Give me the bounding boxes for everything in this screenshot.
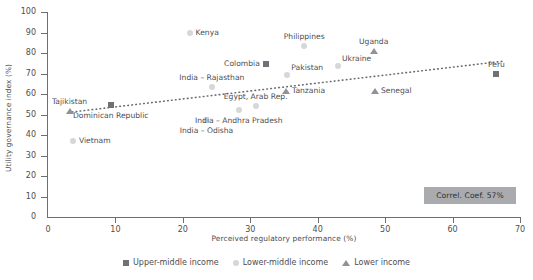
data-point-marker <box>187 30 193 36</box>
data-point-marker <box>371 88 379 94</box>
legend-item[interactable]: Upper-middle income <box>123 258 219 267</box>
data-point-marker <box>236 107 242 113</box>
legend-item[interactable]: Lower income <box>342 258 410 267</box>
y-tick-label: 70 <box>0 70 36 78</box>
data-point-marker <box>284 72 290 78</box>
legend-item-label: Lower income <box>354 258 410 267</box>
x-tick-label: 0 <box>28 226 68 234</box>
data-point-marker <box>253 103 259 109</box>
data-point-marker <box>66 108 74 114</box>
chart-legend: Upper-middle incomeLower-middle incomeLo… <box>0 258 533 267</box>
y-tick-mark <box>41 94 47 95</box>
data-point-marker <box>108 102 114 108</box>
triangle-swatch-icon <box>342 260 350 266</box>
y-tick-mark <box>41 74 47 75</box>
data-point-label: Tajikistan <box>52 97 87 106</box>
data-point-marker <box>209 84 215 90</box>
x-tick-mark <box>183 218 184 223</box>
y-tick-mark <box>41 33 47 34</box>
legend-item[interactable]: Lower-middle income <box>233 258 329 267</box>
x-tick-label: 50 <box>365 226 405 234</box>
data-point-label: Dominican Republic <box>73 111 148 120</box>
data-point-label: India – Rajasthan <box>179 73 244 82</box>
x-tick-label: 20 <box>163 226 203 234</box>
data-point-marker <box>263 61 269 67</box>
y-tick-label: 20 <box>0 172 36 180</box>
data-point-label: Senegal <box>381 86 412 95</box>
y-tick-label: 30 <box>0 152 36 160</box>
y-tick-label: 10 <box>0 193 36 201</box>
y-axis-line <box>47 12 48 218</box>
x-tick-mark <box>520 218 521 223</box>
x-tick-label: 10 <box>95 226 135 234</box>
x-tick-label: 30 <box>230 226 270 234</box>
y-tick-label: 60 <box>0 90 36 98</box>
correlation-coefficient-badge: Correl. Coef. 57% <box>424 187 516 204</box>
data-point-label: Vietnam <box>79 136 111 145</box>
y-tick-mark <box>41 12 47 13</box>
y-tick-label: 90 <box>0 29 36 37</box>
y-tick-label: 0 <box>0 213 36 221</box>
y-tick-label: 100 <box>0 8 36 16</box>
x-tick-label: 40 <box>298 226 338 234</box>
y-tick-mark <box>41 115 47 116</box>
y-tick-mark <box>41 135 47 136</box>
legend-item-label: Upper-middle income <box>133 258 219 267</box>
data-point-marker <box>301 43 307 49</box>
data-point-label: Pakistan <box>291 63 323 72</box>
y-tick-mark <box>41 176 47 177</box>
data-point-label: Uganda <box>359 37 388 46</box>
data-point-marker <box>70 138 76 144</box>
data-point-marker <box>370 48 378 54</box>
data-point-marker <box>282 88 290 94</box>
data-point-label: Philippines <box>284 32 325 41</box>
y-tick-mark <box>41 53 47 54</box>
x-tick-label: 70 <box>500 226 533 234</box>
x-tick-mark <box>385 218 386 223</box>
data-point-label: India – Andhra Pradesh <box>195 116 283 125</box>
data-point-marker <box>493 71 499 77</box>
data-point-label: Peru <box>488 60 505 69</box>
data-point-marker <box>335 63 341 69</box>
data-point-label: Egypt, Arab Rep. <box>224 92 288 101</box>
x-tick-mark <box>453 218 454 223</box>
data-point-label: Ukraine <box>342 54 371 63</box>
legend-item-label: Lower-middle income <box>243 258 329 267</box>
data-point-label: Colombia <box>224 59 260 68</box>
x-tick-label: 60 <box>433 226 473 234</box>
y-tick-mark <box>41 197 47 198</box>
y-tick-label: 50 <box>0 111 36 119</box>
data-point-label: India – Odisha <box>180 126 234 135</box>
x-axis-line <box>47 217 521 218</box>
scatter-chart: Utility governance index (%) Perceived r… <box>0 0 533 280</box>
circle-swatch-icon <box>233 260 239 266</box>
data-point-label: Tanzania <box>292 86 325 95</box>
x-axis-title: Perceived regulatory performance (%) <box>48 234 520 243</box>
data-point-label: Kenya <box>196 28 219 37</box>
square-swatch-icon <box>123 260 129 266</box>
x-tick-mark <box>250 218 251 223</box>
y-tick-label: 40 <box>0 131 36 139</box>
y-tick-mark <box>41 156 47 157</box>
x-tick-mark <box>115 218 116 223</box>
y-tick-label: 80 <box>0 49 36 57</box>
x-tick-mark <box>318 218 319 223</box>
